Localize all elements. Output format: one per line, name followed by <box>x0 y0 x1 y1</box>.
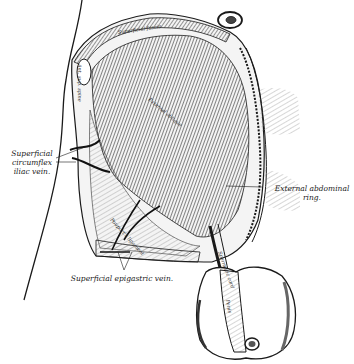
label-line: Superficial <box>6 149 58 158</box>
umbilicus <box>218 12 242 28</box>
anatomical-illustration: Superficial fascia External oblique Ant.… <box>0 0 354 364</box>
label-external-abdominal-ring: External abdominal ring. <box>272 184 352 202</box>
label-superficial-circumflex-iliac-vein: Superficial circumflex iliac vein. <box>6 149 58 176</box>
thigh-shading <box>258 88 300 135</box>
label-line: ring. <box>272 193 352 202</box>
label-line: External abdominal <box>272 184 352 193</box>
label-line: circumflex <box>6 158 58 167</box>
illustration-drawing: Superficial fascia External oblique Ant.… <box>0 0 354 364</box>
label-line: iliac vein. <box>6 167 58 176</box>
engraved-lateral-strip: Ant. sup. spine <box>76 63 83 102</box>
label-superficial-epigastric-vein: Superficial epigastric vein. <box>62 274 182 283</box>
scrotum-and-penis <box>197 267 296 359</box>
